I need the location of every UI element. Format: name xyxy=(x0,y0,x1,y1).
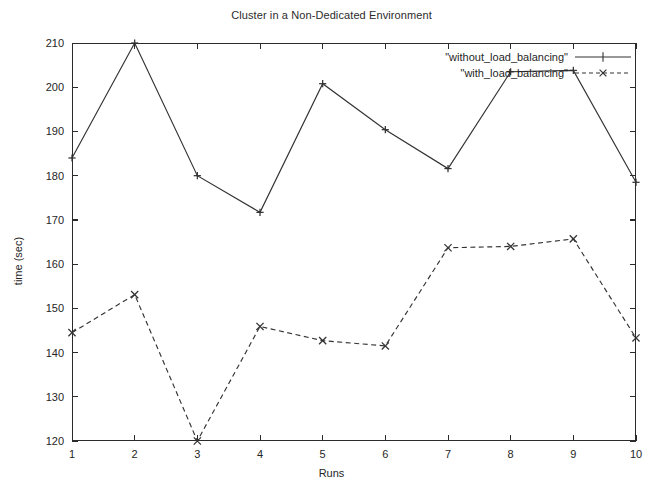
series-line xyxy=(72,239,636,441)
legend-item: "with_load_balancing" xyxy=(403,65,632,81)
cross-marker xyxy=(131,291,138,298)
legend-key-dashed-cross xyxy=(574,66,632,80)
legend-item: "without_load_balancing" xyxy=(403,49,632,65)
plus-marker xyxy=(632,179,639,186)
plus-marker xyxy=(256,209,263,216)
cross-marker xyxy=(68,329,75,336)
plus-marker xyxy=(194,172,201,179)
chart-legend: "without_load_balancing" "with_load_bala… xyxy=(403,47,636,84)
legend-key-solid-plus xyxy=(574,50,632,64)
chart-container: Cluster in a Non-Dedicated Environment 1… xyxy=(0,0,663,487)
legend-label-series-1: "without_load_balancing" xyxy=(445,51,568,63)
plus-marker xyxy=(68,154,75,161)
cross-marker xyxy=(444,244,451,251)
legend-label-series-2: "with_load_balancing" xyxy=(461,67,569,79)
cross-marker xyxy=(570,235,577,242)
plus-marker xyxy=(444,165,451,172)
cross-marker xyxy=(632,334,639,341)
cross-marker xyxy=(194,437,201,444)
plus-marker xyxy=(131,39,138,46)
data-series xyxy=(68,235,639,444)
